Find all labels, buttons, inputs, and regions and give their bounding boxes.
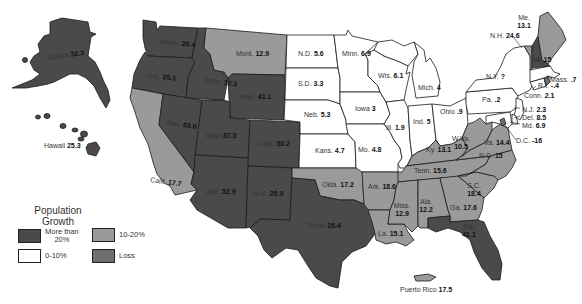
state-name: Ariz. (206, 188, 222, 195)
label-connecticut: Conn. 2.1 (524, 92, 554, 99)
state-name: La. (378, 230, 390, 237)
label-louisiana: La. 15.1 (378, 230, 403, 237)
state-value: 25.1 (162, 73, 176, 81)
state-value: 17.6 (463, 204, 477, 211)
state-value: 5.3 (321, 111, 331, 118)
state-hawaii[interactable] (36, 114, 101, 157)
legend-swatch-mid (92, 228, 115, 242)
state-name: D.C. (516, 137, 532, 144)
state-value: 4.7 (335, 147, 345, 154)
state-value: 1.9 (395, 124, 405, 131)
state-value: 6.9 (361, 50, 371, 57)
state-value: 13.1 (517, 22, 531, 29)
state-name: N.M. (253, 190, 270, 197)
label-maryland: Md. 6.9 (522, 122, 545, 129)
label-rhode-island: R.I. -.4 (538, 82, 559, 89)
label-iowa: Iowa 3 (355, 105, 376, 112)
state-value: 13.1 (438, 146, 452, 153)
legend-swatch-high (18, 229, 41, 243)
state-value: 26.4 (327, 222, 341, 229)
state-new-york[interactable] (466, 46, 534, 96)
label-south-carolina: S.C.18.4 (467, 182, 481, 197)
state-value: 10.5 (454, 143, 468, 150)
state-name: Fla. (463, 223, 475, 230)
state-value: 18.4 (467, 190, 481, 197)
state-value: 8.5 (536, 114, 546, 121)
label-new-hampshire: N.H. 24.6 (490, 32, 520, 39)
state-name: Ore. (147, 72, 163, 80)
state-new-mexico[interactable] (246, 166, 292, 228)
state-name: Utah (206, 132, 223, 139)
state-puerto-rico[interactable] (414, 274, 436, 281)
label-texas: Texas 26.4 (307, 222, 341, 229)
state-value: 18.6 (382, 183, 396, 190)
label-massachusetts: Mass. .7 (550, 76, 577, 83)
label-hawaii: Hawaii 25.3 (44, 142, 81, 149)
label-dc: D.C. -16 (516, 137, 542, 144)
state-name: Wyo. (240, 93, 258, 101)
legend-label-line2: 20% (45, 236, 79, 244)
label-colorado: Colo. 30.2 (258, 140, 290, 147)
label-south-dakota: S.D. 3.3 (298, 80, 323, 87)
state-value: -16 (532, 137, 542, 144)
label-pennsylvania: Pa. .2 (482, 96, 500, 103)
state-name: Iowa (355, 105, 372, 112)
label-ohio: Ohio .9 (440, 108, 463, 115)
label-wisconsin: Wis. 6.1 (378, 72, 403, 79)
label-new-mexico: N.M. 26.9 (253, 190, 283, 197)
label-utah: Utah 37.3 (206, 132, 236, 139)
state-value: 6.9 (536, 122, 546, 129)
label-indiana: Ind. 5 (413, 118, 431, 125)
label-maine: Me.13.1 (517, 14, 531, 29)
state-value: .9 (457, 108, 463, 115)
state-value: 12.9 (395, 210, 409, 217)
label-north-carolina: N.C. 15 (479, 152, 503, 159)
state-value: 5.6 (314, 50, 324, 57)
state-value: 15 (544, 56, 552, 63)
label-arizona: Ariz. 52.9 (206, 188, 236, 195)
state-value: 37.3 (223, 132, 237, 139)
state-value: 3.3 (314, 80, 324, 87)
state-value: 6.1 (394, 72, 404, 79)
state-name: N.D. (298, 50, 314, 57)
state-name: Miss. (394, 202, 410, 209)
legend-title-line1: Population (18, 205, 98, 216)
legend-title: Population Growth (18, 205, 98, 227)
state-value: 24.6 (506, 32, 520, 39)
state-name: Ohio (440, 108, 457, 115)
state-name: Mo. (358, 146, 372, 153)
state-value: -.4 (551, 82, 559, 89)
state-name: R.I. (538, 82, 551, 89)
state-name: Neb. (304, 111, 321, 118)
state-value: 41.1 (462, 231, 476, 238)
state-value: 14.4 (496, 139, 510, 146)
label-new-york: N.Y. ? (486, 73, 505, 80)
state-value: 41.1 (258, 93, 272, 100)
state-value: 20.4 (181, 40, 195, 48)
legend: More than 20% 10-20% 0-10% Loss (18, 228, 218, 298)
state-value: .2 (494, 96, 500, 103)
legend-label: Loss (119, 252, 135, 260)
state-value: 15.6 (433, 167, 447, 174)
state-name: Va. (484, 139, 496, 146)
state-name: Mont. (236, 50, 255, 57)
label-west-virginia: W.Va.10.5 (452, 135, 470, 150)
state-name: Ky. (426, 146, 438, 154)
state-name: N.H. (490, 32, 506, 39)
label-montana: Mont. 12.9 (236, 50, 269, 57)
label-florida: Fla.41.1 (462, 223, 476, 238)
label-tennessee: Tenn. 15.6 (414, 167, 447, 174)
state-value: 4.8 (372, 146, 382, 153)
state-value: 4 (437, 84, 441, 91)
state-name: S.C. (467, 182, 481, 189)
state-alaska[interactable] (12, 18, 110, 108)
label-georgia: Ga. 17.6 (450, 204, 477, 211)
label-delaware: Del. 8.5 (522, 114, 546, 121)
label-vermont: Vt. 15 (533, 56, 551, 63)
state-name: N.Y. (486, 73, 501, 80)
state-value: 2.3 (536, 106, 546, 113)
label-illinois: Ill. 1.9 (386, 124, 405, 131)
state-name: Tenn. (414, 167, 433, 174)
state-name: Ala. (420, 198, 432, 205)
state-value: 52.9 (222, 188, 236, 195)
